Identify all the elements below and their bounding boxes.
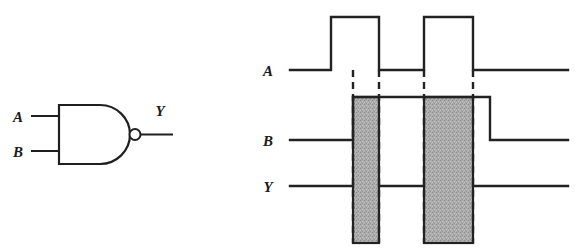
timing-diagram: A B Y xyxy=(262,17,568,243)
shaded-region-2 xyxy=(424,97,473,243)
signal-label-a: A xyxy=(262,63,273,79)
gate-input-a-label: A xyxy=(12,109,23,125)
nand-gate-symbol: A B Y xyxy=(12,103,172,164)
gate-body-shape xyxy=(59,105,130,164)
shaded-region-1 xyxy=(353,97,379,243)
signal-label-y: Y xyxy=(263,179,274,195)
gate-output-y-label: Y xyxy=(155,103,166,119)
logic-figure: A B Y A B Y xyxy=(0,0,576,252)
signal-label-b: B xyxy=(262,133,273,149)
gate-input-b-label: B xyxy=(12,144,23,160)
figure-canvas: A B Y A B Y xyxy=(0,0,576,252)
signal-a-waveform xyxy=(290,17,568,70)
inversion-bubble-icon xyxy=(130,129,141,140)
